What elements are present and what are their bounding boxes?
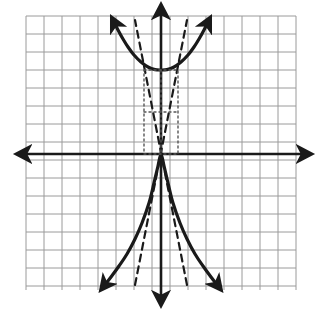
graph-canvas <box>0 0 321 313</box>
hyperbola-graph-figure <box>0 0 321 313</box>
